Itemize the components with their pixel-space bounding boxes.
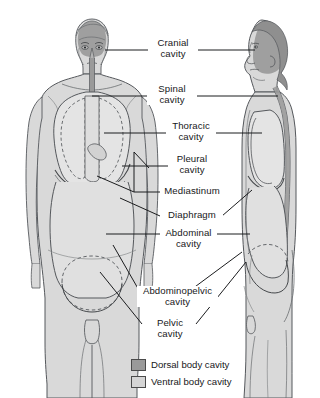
groin-outline	[85, 320, 100, 344]
body-cavities-diagram: Cranial cavity Spinal cavity Thoracic ca…	[0, 0, 320, 398]
label-mediastinum-line1: Mediastinum	[161, 186, 223, 197]
label-pleural-cavity-line1: Pleural	[169, 154, 215, 165]
legend: Dorsal body cavity Ventral body cavity	[131, 357, 261, 389]
legend-swatch-dorsal-icon	[131, 359, 146, 371]
label-spinal-cavity-line1: Spinal	[148, 84, 196, 95]
label-mediastinum: Mediastinum	[160, 186, 224, 197]
label-pleural-cavity: Pleural cavity	[168, 154, 216, 175]
legend-label-ventral: Ventral body cavity	[151, 376, 232, 387]
label-pelvic-cavity-line2: cavity	[146, 329, 194, 340]
label-spinal-cavity-line2: cavity	[148, 95, 196, 106]
thoracic-cavity-lateral	[248, 110, 284, 189]
label-cranial-cavity: Cranial cavity	[148, 38, 198, 59]
legend-item-ventral: Ventral body cavity	[131, 374, 261, 389]
label-pelvic-cavity-line1: Pelvic	[146, 318, 194, 329]
label-thoracic-cavity-line2: cavity	[167, 132, 215, 143]
label-abdominopelvic-cavity-line1: Abdominopelvic	[138, 286, 217, 297]
label-diaphragm-line1: Diaphragm	[162, 210, 222, 221]
legend-swatch-ventral-icon	[131, 376, 146, 388]
label-abdominal-cavity: Abdominal cavity	[160, 228, 217, 249]
label-diaphragm: Diaphragm	[161, 210, 223, 221]
label-pleural-cavity-line2: cavity	[169, 165, 215, 176]
label-abdominal-cavity-line2: cavity	[161, 239, 216, 250]
label-spinal-cavity: Spinal cavity	[147, 84, 197, 105]
abdominal-cavity-outline	[50, 182, 134, 298]
label-cranial-cavity-line2: cavity	[149, 49, 197, 60]
mediastinum-region	[85, 96, 99, 182]
label-thoracic-cavity: Thoracic cavity	[166, 121, 216, 142]
legend-item-dorsal: Dorsal body cavity	[131, 357, 261, 372]
label-cranial-cavity-line1: Cranial	[149, 38, 197, 49]
label-abdominal-cavity-line1: Abdominal	[161, 228, 216, 239]
label-abdominopelvic-cavity: Abdominopelvic cavity	[137, 286, 218, 307]
legend-label-dorsal: Dorsal body cavity	[151, 359, 229, 370]
spinal-cavity-shading	[90, 58, 95, 92]
label-abdominopelvic-cavity-line2: cavity	[138, 297, 217, 308]
label-thoracic-cavity-line1: Thoracic	[167, 121, 215, 132]
label-pelvic-cavity: Pelvic cavity	[145, 318, 195, 339]
